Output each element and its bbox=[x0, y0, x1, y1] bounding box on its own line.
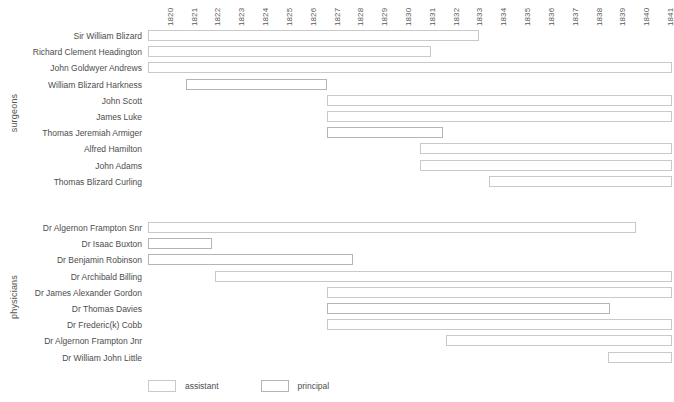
row-label: John Scott bbox=[6, 96, 146, 106]
timeline-bar-assistant bbox=[148, 30, 479, 41]
plot-area bbox=[148, 28, 672, 368]
year-tick-label: 1822 bbox=[214, 8, 222, 26]
row-label: Alfred Hamilton bbox=[6, 144, 146, 154]
timeline-bar-assistant bbox=[420, 160, 672, 171]
timeline-bar-assistant bbox=[420, 143, 672, 154]
year-tick-label: 1829 bbox=[381, 8, 389, 26]
gantt-chart: 1820182118221823182418251826182718281829… bbox=[0, 0, 674, 402]
timeline-bar-assistant bbox=[148, 62, 672, 73]
row-label: Dr Algernon Frampton Jnr bbox=[6, 336, 146, 346]
timeline-bar-assistant bbox=[446, 335, 672, 346]
year-tick-label: 1820 bbox=[167, 8, 175, 26]
timeline-bar-assistant bbox=[215, 271, 672, 282]
row-label: Thomas Jeremiah Armiger bbox=[6, 128, 146, 138]
row-label: John Goldwyer Andrews bbox=[6, 63, 146, 73]
year-tick-label: 1824 bbox=[262, 8, 270, 26]
year-tick-label: 1831 bbox=[429, 8, 437, 26]
year-tick-label: 1823 bbox=[238, 8, 246, 26]
year-tick-label: 1838 bbox=[596, 8, 604, 26]
row-label: Dr William John Little bbox=[6, 353, 146, 363]
year-tick-label: 1821 bbox=[191, 8, 199, 26]
timeline-bar-assistant bbox=[327, 319, 672, 330]
year-tick-label: 1839 bbox=[619, 8, 627, 26]
row-label: Dr Archibald Billing bbox=[6, 272, 146, 282]
timeline-bar-principal bbox=[148, 238, 212, 249]
timeline-bar-assistant bbox=[148, 46, 431, 57]
row-label: Dr Frederic(k) Cobb bbox=[6, 320, 146, 330]
group-label-physicians: physicians bbox=[9, 275, 19, 319]
year-tick-label: 1828 bbox=[357, 8, 365, 26]
timeline-bar-principal bbox=[327, 127, 444, 138]
row-label: Dr James Alexander Gordon bbox=[6, 288, 146, 298]
legend-item-principal: principal bbox=[261, 380, 330, 392]
row-label: Dr Isaac Buxton bbox=[6, 239, 146, 249]
legend-label: assistant bbox=[185, 381, 219, 391]
year-tick-label: 1833 bbox=[476, 8, 484, 26]
timeline-bar-assistant bbox=[489, 176, 672, 187]
legend-label: principal bbox=[298, 381, 330, 391]
timeline-bar-principal bbox=[186, 79, 327, 90]
row-label: James Luke bbox=[6, 112, 146, 122]
year-tick-label: 1832 bbox=[453, 8, 461, 26]
group-label-surgeons: surgeons bbox=[9, 94, 19, 133]
legend-item-assistant: assistant bbox=[148, 380, 219, 392]
timeline-bar-assistant bbox=[327, 111, 672, 122]
year-tick-label: 1837 bbox=[572, 8, 580, 26]
row-label-column: Sir William BlizardRichard Clement Headi… bbox=[0, 0, 146, 402]
year-tick-label: 1835 bbox=[524, 8, 532, 26]
row-label: Dr Benjamin Robinson bbox=[6, 255, 146, 265]
timeline-bar-principal bbox=[327, 303, 610, 314]
row-label: William Blizard Harkness bbox=[6, 80, 146, 90]
timeline-bar-assistant bbox=[327, 95, 672, 106]
legend-swatch-principal bbox=[261, 380, 289, 392]
row-label: Richard Clement Headington bbox=[6, 47, 146, 57]
year-tick-label: 1826 bbox=[310, 8, 318, 26]
year-tick-label: 1827 bbox=[334, 8, 342, 26]
year-tick-label: 1840 bbox=[643, 8, 651, 26]
row-label: Dr Thomas Davies bbox=[6, 304, 146, 314]
legend-swatch-assistant bbox=[148, 380, 176, 392]
row-label: John Adams bbox=[6, 161, 146, 171]
year-tick-label: 1841 bbox=[667, 8, 674, 26]
row-label: Sir William Blizard bbox=[6, 31, 146, 41]
chart-legend: assistantprincipal bbox=[148, 378, 371, 394]
year-tick-label: 1834 bbox=[500, 8, 508, 26]
timeline-bar-principal bbox=[148, 254, 353, 265]
row-label: Dr Algernon Frampton Snr bbox=[6, 223, 146, 233]
year-tick-label: 1830 bbox=[405, 8, 413, 26]
year-tick-label: 1836 bbox=[548, 8, 556, 26]
row-label: Thomas Blizard Curling bbox=[6, 177, 146, 187]
timeline-bar-assistant bbox=[148, 222, 636, 233]
year-tick-label: 1825 bbox=[286, 8, 294, 26]
timeline-bar-assistant bbox=[327, 287, 672, 298]
timeline-bar-assistant bbox=[608, 352, 672, 363]
